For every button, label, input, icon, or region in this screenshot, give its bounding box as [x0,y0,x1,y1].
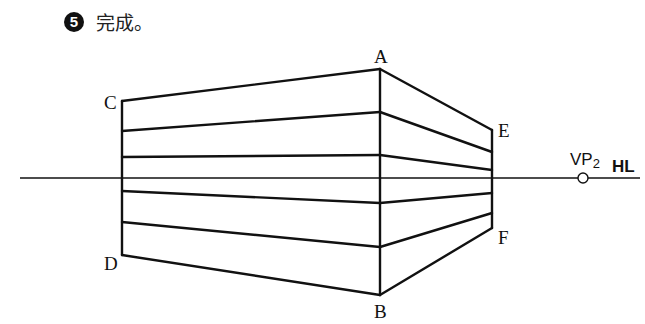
right-face-line-4 [380,193,492,203]
left-face-bottom [122,255,380,295]
label-f: F [498,227,509,248]
right-face-bottom [380,228,492,295]
label-b: B [374,301,387,322]
right-face-line-2 [380,112,492,152]
label-c: C [104,92,117,113]
label-d: D [104,253,118,274]
left-face-top [122,69,380,101]
vanishing-point-icon [578,173,588,183]
horizon-label: HL [612,157,635,176]
left-face-line-2 [122,112,380,131]
right-face-line-5 [380,213,492,247]
vanishing-point-label: VP2 [570,150,600,171]
left-face-line-4 [122,191,380,203]
right-face-top [380,69,492,130]
left-face-line-5 [122,222,380,247]
label-a: A [374,46,388,67]
perspective-diagram: A B C D E F VP2 HL [0,0,645,324]
left-face-line-3 [122,155,380,157]
right-face-line-3 [380,155,492,170]
label-e: E [498,120,510,141]
